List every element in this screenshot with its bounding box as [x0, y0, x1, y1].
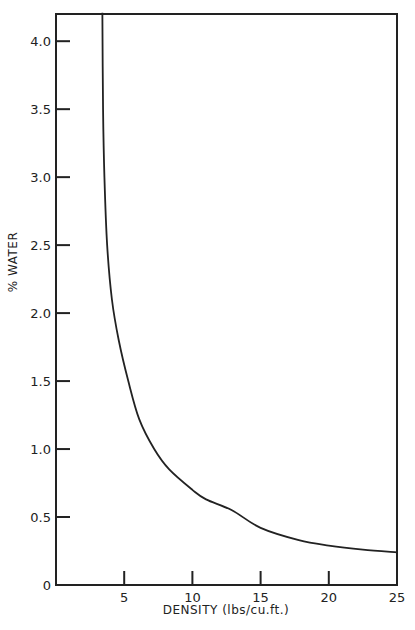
y-tick-label: 1.0 — [30, 442, 51, 457]
y-tick-label: 0 — [43, 578, 51, 593]
x-axis-title: DENSITY (lbs/cu.ft.) — [163, 603, 290, 617]
y-axis-title: % WATER — [6, 232, 20, 292]
y-tick-label: 2.5 — [30, 238, 51, 253]
y-tick-label: 0.5 — [30, 510, 51, 525]
y-tick-label: 3.5 — [30, 102, 51, 117]
plot-frame — [56, 14, 397, 585]
x-tick-label: 5 — [120, 590, 128, 605]
x-tick-label: 20 — [321, 590, 338, 605]
y-axis-ticks: 00.51.01.52.02.53.03.54.0 — [30, 34, 70, 593]
y-tick-label: 1.5 — [30, 374, 51, 389]
x-axis-ticks: 510152025 — [120, 571, 405, 605]
chart: 00.51.01.52.02.53.03.54.0 510152025 DENS… — [0, 0, 415, 630]
y-tick-label: 3.0 — [30, 170, 51, 185]
y-tick-label: 2.0 — [30, 306, 51, 321]
x-tick-label: 25 — [389, 590, 406, 605]
data-curve — [102, 13, 397, 553]
y-tick-label: 4.0 — [30, 34, 51, 49]
